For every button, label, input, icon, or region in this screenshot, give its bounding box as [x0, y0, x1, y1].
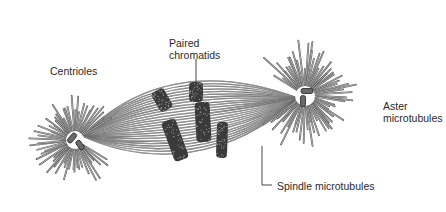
aster-microtubules-label-line2: microtubules: [383, 112, 443, 124]
paired-chromatids-label-line2: chromatids: [169, 49, 220, 61]
spindle-microtubules-label: Spindle microtubules: [277, 180, 374, 192]
mitotic-spindle-diagram: Centrioles Paired chromatids Aster micro…: [0, 0, 446, 212]
aster-microtubules-label-line1: Aster: [383, 100, 408, 112]
spindle-illustration: [0, 0, 446, 212]
spindle-leader-line: [262, 146, 272, 185]
paired-chromatids-label-line1: Paired: [169, 37, 199, 49]
centrioles-label: Centrioles: [50, 65, 97, 77]
